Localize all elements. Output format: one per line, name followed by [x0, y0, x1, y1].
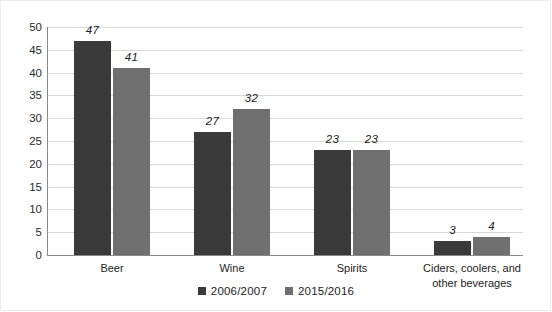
bar-value-label: 4 — [488, 220, 495, 232]
bar — [473, 237, 510, 255]
chart-legend: 2006/20072015/2016 — [0, 285, 552, 297]
y-axis-tick-label: 45 — [10, 44, 42, 56]
bar-value-label: 3 — [449, 224, 456, 236]
bar-value-label: 47 — [86, 24, 99, 36]
y-axis-tick-label: 25 — [10, 135, 42, 147]
bar-value-label: 32 — [245, 92, 258, 104]
bar-chart: 05101520253035404550 47412732232334 Beer… — [0, 0, 552, 312]
bar — [233, 109, 270, 255]
legend-label: 2015/2016 — [298, 285, 354, 297]
plot-area: 47412732232334 — [48, 27, 523, 255]
y-axis-tick-label: 15 — [10, 181, 42, 193]
legend-item[interactable]: 2006/2007 — [198, 285, 267, 297]
y-axis-tick-label: 20 — [10, 158, 42, 170]
bar — [74, 41, 111, 255]
legend-swatch-icon — [198, 287, 206, 295]
gridline — [48, 255, 523, 256]
legend-label: 2006/2007 — [211, 285, 267, 297]
bar-value-label: 23 — [326, 133, 339, 145]
y-axis-tick-label: 40 — [10, 67, 42, 79]
y-axis-tick-label: 5 — [10, 226, 42, 238]
bar — [353, 150, 390, 255]
gridline — [48, 50, 523, 51]
bar — [314, 150, 351, 255]
gridline — [48, 27, 523, 28]
y-axis-tick-label: 50 — [10, 21, 42, 33]
bar — [194, 132, 231, 255]
bar — [434, 241, 471, 255]
y-axis-tick-label: 10 — [10, 203, 42, 215]
y-axis-tick-label: 30 — [10, 112, 42, 124]
y-axis-tick-label: 35 — [10, 89, 42, 101]
bar — [113, 68, 150, 255]
bar-value-label: 27 — [206, 115, 219, 127]
bar-value-label: 23 — [365, 133, 378, 145]
bar-value-label: 41 — [125, 51, 138, 63]
y-axis-tick-label: 0 — [10, 249, 42, 261]
legend-swatch-icon — [285, 287, 293, 295]
legend-item[interactable]: 2015/2016 — [285, 285, 354, 297]
